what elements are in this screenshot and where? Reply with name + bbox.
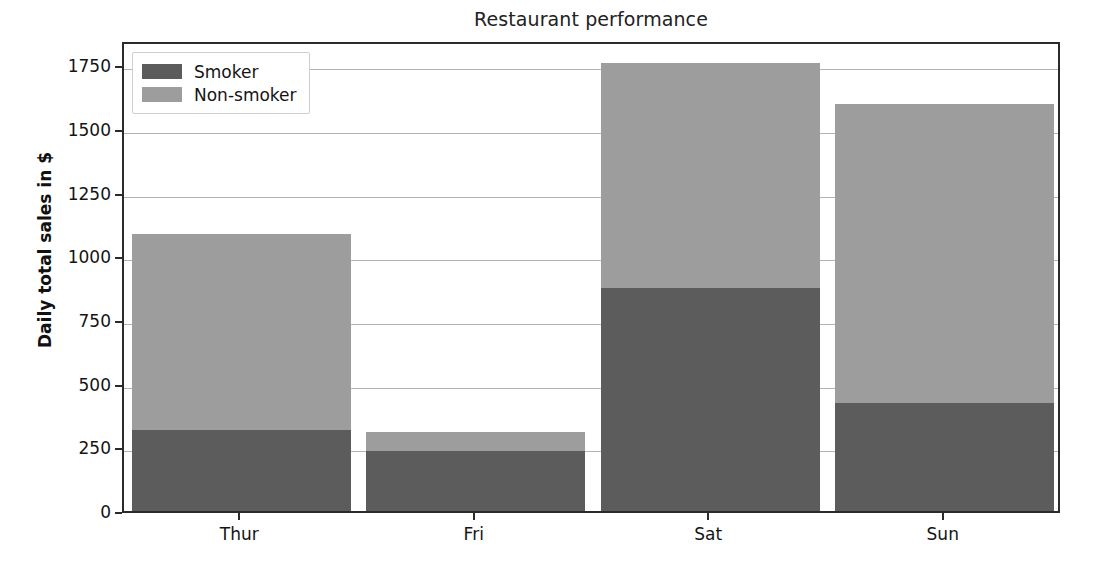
x-tick-label: Thur xyxy=(159,524,319,544)
y-tick-label: 1000 xyxy=(21,247,111,267)
x-tick-label: Fri xyxy=(394,524,554,544)
bar-segment-smoker-thur xyxy=(132,430,351,511)
y-tick-mark xyxy=(115,257,122,259)
bar-segment-smoker-sun xyxy=(835,403,1054,511)
y-tick-mark xyxy=(115,321,122,323)
chart-title: Restaurant performance xyxy=(122,8,1060,30)
legend-label: Non-smoker xyxy=(194,85,297,105)
y-tick-mark xyxy=(115,385,122,387)
x-tick-label: Sun xyxy=(863,524,1023,544)
chart-figure: Restaurant performance Daily total sales… xyxy=(0,0,1096,573)
y-tick-mark xyxy=(115,194,122,196)
legend-item: Smoker xyxy=(142,60,297,83)
y-tick-label: 250 xyxy=(21,438,111,458)
y-tick-mark xyxy=(115,130,122,132)
chart-legend: Smoker Non-smoker xyxy=(132,52,310,114)
bar-segment-non-smoker-thur xyxy=(132,234,351,430)
bar-segment-smoker-sat xyxy=(601,288,820,511)
legend-swatch-non-smoker xyxy=(142,87,182,102)
legend-swatch-smoker xyxy=(142,64,182,79)
bar-segment-non-smoker-fri xyxy=(366,432,585,451)
y-tick-label: 1250 xyxy=(21,184,111,204)
y-tick-label: 1500 xyxy=(21,120,111,140)
y-tick-label: 750 xyxy=(21,311,111,331)
bar-group-sun xyxy=(835,42,1054,511)
bar-segment-non-smoker-sun xyxy=(835,104,1054,403)
y-tick-mark xyxy=(115,448,122,450)
y-tick-label: 1750 xyxy=(21,56,111,76)
x-tick-mark xyxy=(707,513,709,520)
y-tick-mark xyxy=(115,512,122,514)
legend-item: Non-smoker xyxy=(142,83,297,106)
x-tick-label: Sat xyxy=(628,524,788,544)
bar-group-fri xyxy=(366,42,585,511)
y-tick-label: 500 xyxy=(21,375,111,395)
x-tick-mark xyxy=(238,513,240,520)
bar-group-sat xyxy=(601,42,820,511)
y-tick-mark xyxy=(115,66,122,68)
legend-label: Smoker xyxy=(194,62,258,82)
bar-segment-non-smoker-sat xyxy=(601,63,820,289)
x-tick-mark xyxy=(473,513,475,520)
y-tick-label: 0 xyxy=(21,502,111,522)
bar-segment-smoker-fri xyxy=(366,451,585,511)
x-tick-mark xyxy=(942,513,944,520)
